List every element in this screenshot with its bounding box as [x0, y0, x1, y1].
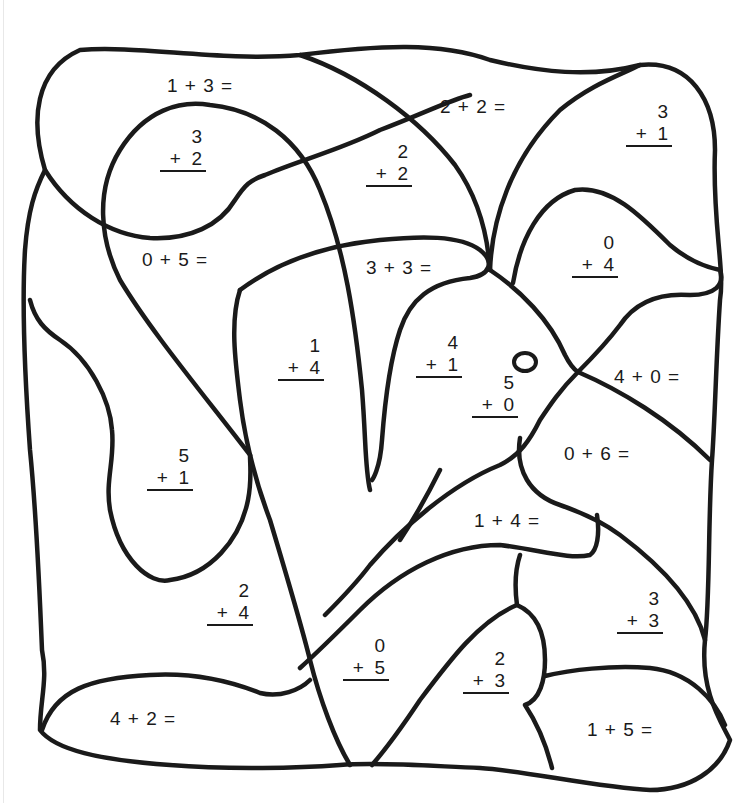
problem-4-plus-0: 4 + 0 =	[614, 367, 680, 386]
addend-top: 2	[366, 142, 412, 164]
problem-0-plus-4: 0 + 4	[572, 233, 618, 278]
problem-text: 2 + 2 =	[440, 96, 506, 117]
addend-bottom: + 0	[472, 395, 518, 418]
problem-5-plus-0: 5 + 0	[472, 373, 518, 418]
problem-text: 4 + 2 =	[110, 708, 176, 729]
problem-2-plus-3: 2 + 3	[463, 649, 509, 694]
problem-0-plus-5-horizontal: 0 + 5 =	[142, 250, 208, 269]
outline-51-pocket	[30, 300, 251, 581]
problem-text: 0 + 6 =	[564, 443, 630, 464]
problem-1-plus-4-vertical: 1 + 4	[278, 336, 324, 381]
addend-bottom: + 5	[343, 658, 389, 681]
problem-0-plus-6: 0 + 6 =	[564, 444, 630, 463]
problem-4-plus-2: 4 + 2 =	[110, 709, 176, 728]
problem-2-plus-2-horizontal: 2 + 2 =	[440, 97, 506, 116]
addend-top: 5	[147, 446, 193, 468]
problem-text: 1 + 5 =	[587, 719, 653, 740]
addend-bottom: + 3	[617, 611, 663, 634]
problem-text: 1 + 3 =	[167, 75, 233, 96]
addend-top: 3	[626, 102, 672, 124]
problem-3-plus-1: 3 + 1	[626, 102, 672, 147]
addend-bottom: + 2	[366, 164, 412, 187]
problem-3-plus-3-horizontal: 3 + 3 =	[366, 258, 432, 277]
addend-top: 3	[617, 589, 663, 611]
problem-3-plus-3-vertical: 3 + 3	[617, 589, 663, 634]
addend-bottom: + 1	[416, 355, 462, 378]
addend-top: 0	[572, 233, 618, 255]
problem-1-plus-3: 1 + 3 =	[167, 76, 233, 95]
addend-bottom: + 2	[160, 149, 206, 172]
addend-top: 5	[472, 373, 518, 395]
coloring-worksheet: 1 + 3 = 3 + 2 2 + 2 = 2 + 2 3 + 1 0 + 5 …	[0, 0, 754, 803]
addend-top: 4	[416, 333, 462, 355]
problem-text: 1 + 4 =	[474, 510, 540, 531]
problem-5-plus-1: 5 + 1	[147, 446, 193, 491]
problem-0-plus-5-vertical: 0 + 5	[343, 636, 389, 681]
problem-1-plus-4-horizontal: 1 + 4 =	[474, 511, 540, 530]
eye-ring	[514, 353, 536, 371]
addend-bottom: + 4	[207, 603, 253, 626]
problem-2-plus-2-vertical: 2 + 2	[366, 142, 412, 187]
addend-bottom: + 4	[572, 255, 618, 278]
addend-bottom: + 4	[278, 358, 324, 381]
addend-top: 1	[278, 336, 324, 358]
outline-right-blob	[513, 189, 721, 372]
problem-2-plus-4: 2 + 4	[207, 581, 253, 626]
addend-top: 2	[463, 649, 509, 671]
outline-06-blob	[519, 438, 705, 640]
problem-text: 3 + 3 =	[366, 257, 432, 278]
problem-text: 4 + 0 =	[614, 366, 680, 387]
addend-bottom: + 3	[463, 671, 509, 694]
addend-top: 2	[207, 581, 253, 603]
addend-top: 3	[160, 127, 206, 149]
problem-4-plus-1: 4 + 1	[416, 333, 462, 378]
addend-top: 0	[343, 636, 389, 658]
addend-bottom: + 1	[626, 124, 672, 147]
addend-bottom: + 1	[147, 468, 193, 491]
problem-1-plus-5: 1 + 5 =	[587, 720, 653, 739]
problem-text: 0 + 5 =	[142, 249, 208, 270]
problem-3-plus-2: 3 + 2	[160, 127, 206, 172]
